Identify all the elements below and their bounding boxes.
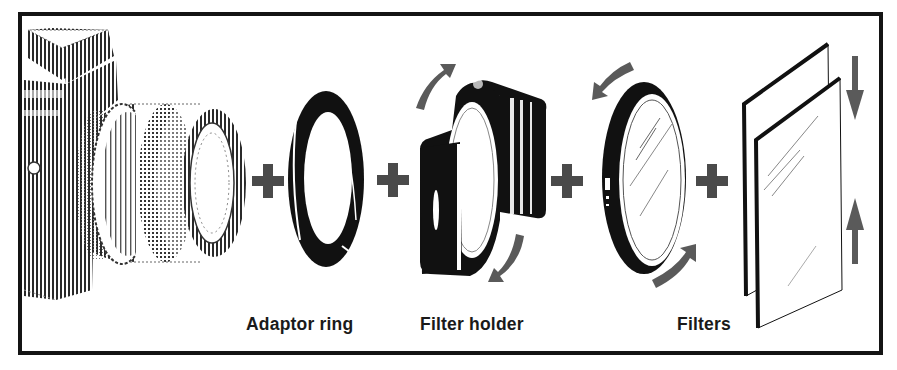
label-adaptor-ring: Adaptor ring xyxy=(246,314,353,335)
plus-icon xyxy=(551,164,583,198)
round-filter-icon xyxy=(592,62,696,288)
holder-icon xyxy=(416,64,546,282)
ring-icon xyxy=(288,91,364,267)
square-filter-icon xyxy=(744,44,842,328)
plus-icon xyxy=(696,164,728,198)
slide-arrow-icon xyxy=(846,56,864,264)
label-filter-holder: Filter holder xyxy=(420,314,524,335)
plus-icon xyxy=(377,163,409,197)
camera-icon xyxy=(24,28,246,300)
label-filters: Filters xyxy=(677,314,731,335)
plus-icon xyxy=(252,164,284,198)
